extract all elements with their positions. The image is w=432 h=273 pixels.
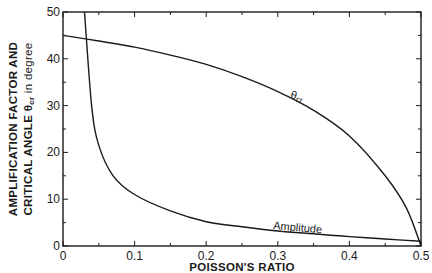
y-axis-title-line1: AMPLIFICATION FACTOR AND <box>7 42 19 216</box>
plot-frame <box>63 12 421 246</box>
theta-cr-curve <box>63 35 421 246</box>
y-axis-title-line2: CRITICAL ANGLE θcr in degree <box>22 42 36 215</box>
curves <box>63 12 421 246</box>
x-tick-label: 0.1 <box>126 249 143 263</box>
plot-border <box>63 12 421 246</box>
y-tick-label: 30 <box>47 99 61 113</box>
amplitude-curve-label: Amplitude <box>273 219 323 235</box>
chart: 00.10.20.30.40.501020304050 θcr Amplitud… <box>0 0 432 273</box>
amplitude-curve <box>85 12 422 241</box>
theta-cr-curve-label: θcr <box>289 88 305 105</box>
y-tick-label: 40 <box>47 52 61 66</box>
x-axis-title: POISSON'S RATIO <box>189 261 294 273</box>
y-axis-title: AMPLIFICATION FACTOR AND CRITICAL ANGLE … <box>7 42 36 216</box>
y-tick-label: 10 <box>47 192 61 206</box>
tick-labels: 00.10.20.30.40.501020304050 <box>47 5 430 263</box>
y-tick-label: 0 <box>53 239 60 253</box>
x-tick-label: 0.5 <box>413 249 430 263</box>
axis-ticks <box>63 12 421 246</box>
x-tick-label: 0 <box>60 249 67 263</box>
y-tick-label: 20 <box>47 145 61 159</box>
x-tick-label: 0.4 <box>341 249 358 263</box>
y-tick-label: 50 <box>47 5 61 19</box>
